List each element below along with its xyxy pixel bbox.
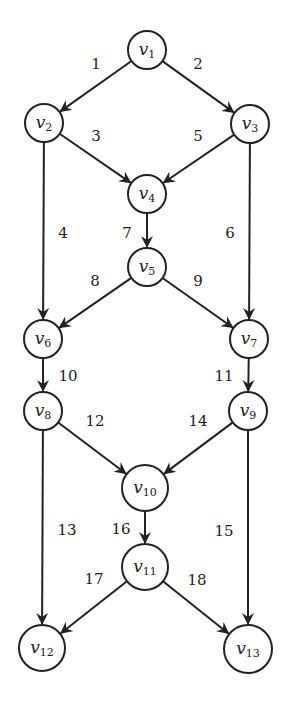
edge-label: 16 <box>111 520 130 538</box>
node-v5: v5 <box>128 248 166 286</box>
edge-label: 6 <box>225 224 235 242</box>
node-v8: v8 <box>24 392 62 430</box>
edge-label: 10 <box>58 367 77 385</box>
node-v9: v9 <box>229 392 267 430</box>
edge-v11-v13 <box>163 581 228 633</box>
node-v4: v4 <box>128 175 166 213</box>
edge-label: 13 <box>57 521 76 539</box>
node-v12: v12 <box>19 625 65 671</box>
node-v6: v6 <box>24 320 62 358</box>
edge-label: 9 <box>193 272 203 290</box>
edge-label: 7 <box>122 224 132 242</box>
edge-v3-v7 <box>249 143 250 319</box>
edge-label: 2 <box>193 55 203 73</box>
edge-label: 8 <box>90 272 100 290</box>
node-v1: v1 <box>128 31 166 69</box>
edge-label: 5 <box>193 127 203 145</box>
edge-label: 11 <box>214 367 233 385</box>
node-v11: v11 <box>122 544 168 590</box>
directed-graph: 123456789101112131415161718 v1v2v3v4v5v6… <box>0 0 288 706</box>
node-v10: v10 <box>122 465 168 511</box>
edge-label: 18 <box>187 571 206 589</box>
edge-v9-v10 <box>164 422 233 473</box>
edge-label: 17 <box>84 570 103 588</box>
edge-v2-v6 <box>43 142 44 319</box>
edge-v11-v12 <box>61 581 127 633</box>
edge-label: 12 <box>85 412 104 430</box>
edge-label: 14 <box>188 412 207 430</box>
nodes: v1v2v3v4v5v6v7v8v9v10v11v12v13 <box>19 31 272 673</box>
edge-label: 1 <box>91 55 101 73</box>
edge-v8-v12 <box>42 430 43 624</box>
edge-label: 15 <box>214 522 233 540</box>
node-v2: v2 <box>25 104 63 142</box>
edge-label: 4 <box>58 224 68 242</box>
edge-label: 3 <box>91 127 101 145</box>
node-v13: v13 <box>224 625 272 673</box>
node-v7: v7 <box>230 320 268 358</box>
node-v3: v3 <box>231 105 269 143</box>
edge-v8-v10 <box>58 422 126 473</box>
